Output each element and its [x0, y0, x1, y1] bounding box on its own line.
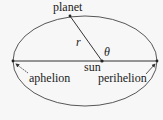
- perihelion-point: [156, 60, 159, 63]
- r-label: r: [76, 35, 81, 49]
- aphelion-point: [12, 60, 15, 63]
- aphelion-label: aphelion: [29, 71, 70, 85]
- orbit-svg: planet r θ sun aphelion perihelion: [0, 0, 163, 120]
- sun-point: [100, 59, 103, 62]
- theta-label: θ: [104, 45, 110, 59]
- planet-point: [69, 15, 72, 18]
- perihelion-arrow: [146, 64, 155, 74]
- orbit-diagram: planet r θ sun aphelion perihelion: [0, 0, 163, 120]
- planet-label: planet: [53, 0, 83, 14]
- radius-line: [70, 16, 102, 61]
- aphelion-arrow: [16, 64, 28, 73]
- perihelion-label: perihelion: [98, 71, 147, 85]
